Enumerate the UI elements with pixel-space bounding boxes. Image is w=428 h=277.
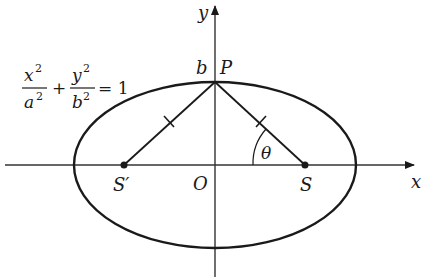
eq-a-sup: 2 xyxy=(36,90,43,103)
point-b-label: b xyxy=(196,57,208,78)
eq-b-sup: 2 xyxy=(83,90,90,103)
focus-right-point xyxy=(302,162,309,169)
eq-x-sup: 2 xyxy=(35,62,42,75)
focus-right-label: S xyxy=(300,174,312,195)
focus-left-label: S′ xyxy=(113,174,129,195)
focus-left-point xyxy=(121,162,128,169)
ellipse-equation: x 2 a 2 + y 2 b 2 = 1 xyxy=(22,62,128,112)
y-axis-label: y xyxy=(197,2,209,23)
eq-y-sup: 2 xyxy=(83,62,90,75)
point-p-label: P xyxy=(219,57,233,78)
eq-a-denominator: a xyxy=(24,92,34,112)
angle-theta-label: θ xyxy=(261,143,271,163)
eq-equals-one: = 1 xyxy=(98,78,128,98)
eq-y-numerator: y xyxy=(71,65,82,85)
x-axis-label: x xyxy=(411,171,421,192)
eq-plus: + xyxy=(52,78,66,98)
ellipse-diagram: y x O b P S′ S θ x 2 a 2 + y 2 b 2 = 1 xyxy=(0,0,428,277)
eq-b-denominator: b xyxy=(72,92,83,112)
eq-x-numerator: x xyxy=(24,65,34,85)
origin-label: O xyxy=(193,173,208,194)
